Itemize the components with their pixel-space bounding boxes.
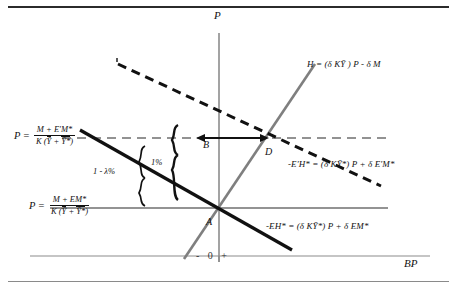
price-level-lower-lhs: P = xyxy=(29,200,45,211)
price-level-lower-denominator: K (Ȳ + Ȳ*) xyxy=(48,206,91,217)
price-level-upper-numerator: M + E'M* xyxy=(34,125,75,136)
price-level-upper-lhs: P = xyxy=(14,130,30,141)
den-y-lower: Ȳ xyxy=(62,207,67,217)
point-label-b: B xyxy=(203,140,209,151)
curve-label-eh-star: -EH* = (δ KȲ*) P + δ EM* xyxy=(266,222,369,231)
price-level-lower-expression: P = M + EM* K (Ȳ + Ȳ*) xyxy=(29,195,91,217)
den-close-lower: ) xyxy=(85,206,88,216)
brace-one-percent xyxy=(172,125,178,200)
axis-label-p: P xyxy=(214,10,221,22)
den-ystar-upper: Ȳ* xyxy=(61,137,70,147)
price-level-lower-numerator: M + EM* xyxy=(50,195,90,206)
den-prefix-lower: K ( xyxy=(51,206,62,216)
den-prefix-upper: K ( xyxy=(36,136,47,146)
den-y-upper: Ȳ xyxy=(47,137,52,147)
den-plus-lower: + xyxy=(66,206,76,216)
annotation-one-percent: 1% xyxy=(151,158,162,167)
curve-eh-star xyxy=(80,130,292,250)
den-ystar-lower: Ȳ* xyxy=(76,207,85,217)
den-close-upper: ) xyxy=(70,136,73,146)
price-level-upper-expression: P = M + E'M* K (Ȳ + Ȳ*) xyxy=(14,125,76,147)
den-plus-upper: + xyxy=(51,136,61,146)
annotation-one-minus-lambda: 1 - λ% xyxy=(93,167,115,176)
point-label-d: D xyxy=(265,147,272,158)
point-label-a: A xyxy=(206,217,212,228)
curve-label-e-prime-h-star: -E'H* = (δ KȲ*) P + δ E'M* xyxy=(288,160,395,169)
brace-one-minus-lambda xyxy=(139,146,145,206)
figure-canvas: P BP - 0 + H = (δ KȲ ) P - δ M -EH* = (δ… xyxy=(0,0,457,291)
price-level-lower-fraction: M + EM* K (Ȳ + Ȳ*) xyxy=(48,195,91,217)
price-level-upper-fraction: M + E'M* K (Ȳ + Ȳ*) xyxy=(33,125,76,147)
axis-label-bp: BP xyxy=(404,258,417,270)
origin-scale-label: - 0 + xyxy=(196,251,230,262)
curve-label-h: H = (δ KȲ ) P - δ M xyxy=(307,60,381,69)
price-level-upper-denominator: K (Ȳ + Ȳ*) xyxy=(33,136,76,147)
